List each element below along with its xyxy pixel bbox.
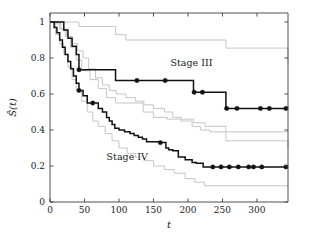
y-tick-label-2: 0.4 xyxy=(31,125,46,135)
x-tick-label-3: 150 xyxy=(145,205,162,215)
censored-marker-0-1 xyxy=(135,78,139,82)
x-tick-label-0: 0 xyxy=(47,205,53,215)
x-tick-label-1: 50 xyxy=(79,205,91,215)
censored-marker-0-6 xyxy=(235,106,239,110)
censored-marker-3-6 xyxy=(236,165,240,169)
x-tick-label-5: 250 xyxy=(214,205,231,215)
x-tick-label-4: 200 xyxy=(179,205,196,215)
censored-marker-0-7 xyxy=(258,106,262,110)
censored-marker-3-7 xyxy=(246,165,250,169)
censored-marker-3-1 xyxy=(91,101,95,105)
censored-marker-0-3 xyxy=(192,90,196,94)
y-tick-label-1: 0.2 xyxy=(31,161,45,171)
censored-marker-3-0 xyxy=(77,88,81,92)
x-tick-label-6: 300 xyxy=(248,205,265,215)
y-tick-label-4: 0.8 xyxy=(31,53,46,63)
censored-marker-3-4 xyxy=(219,165,223,169)
censored-marker-3-8 xyxy=(251,165,255,169)
censored-marker-0-4 xyxy=(200,90,204,94)
y-axis-title: Ŝ(t) xyxy=(7,98,18,117)
stage-iv-label: Stage IV xyxy=(107,151,148,162)
censored-marker-3-2 xyxy=(158,140,162,144)
censored-marker-0-9 xyxy=(284,106,288,110)
stage-iii-label: Stage III xyxy=(170,57,212,68)
censored-marker-0-5 xyxy=(224,106,228,110)
y-tick-label-0: 0 xyxy=(39,197,45,207)
censored-marker-3-9 xyxy=(260,165,264,169)
censored-marker-0-0 xyxy=(77,68,81,72)
y-tick-label-5: 1 xyxy=(39,17,45,27)
censored-marker-0-8 xyxy=(267,106,271,110)
survival-plot-figure: 05010015020025030000.20.40.60.81 Stage I… xyxy=(0,0,311,251)
censored-marker-3-5 xyxy=(227,165,231,169)
chart-canvas: 05010015020025030000.20.40.60.81 Stage I… xyxy=(0,0,311,251)
censored-marker-0-2 xyxy=(163,78,167,82)
censored-marker-3-3 xyxy=(211,165,215,169)
x-tick-label-2: 100 xyxy=(110,205,127,215)
censored-marker-3-10 xyxy=(284,165,288,169)
y-tick-label-3: 0.6 xyxy=(31,89,46,99)
